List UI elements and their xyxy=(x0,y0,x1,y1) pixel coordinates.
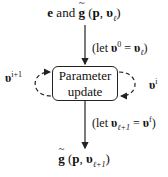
left-loop-arrow xyxy=(35,72,51,96)
right-loop-arrow xyxy=(119,72,135,96)
init-condition-label: (let υ0 = υℓ) xyxy=(92,40,148,57)
right-loop-label: υi xyxy=(149,77,157,93)
output-label: g (p, υℓ+1) xyxy=(0,151,168,169)
parameter-update-box: Parameter update xyxy=(52,66,118,101)
final-condition-label: (let υℓ+1 = υf) xyxy=(92,115,156,132)
input-label: e and g (p, υℓ) xyxy=(0,5,168,23)
left-loop-label: υi+1 xyxy=(5,70,22,86)
